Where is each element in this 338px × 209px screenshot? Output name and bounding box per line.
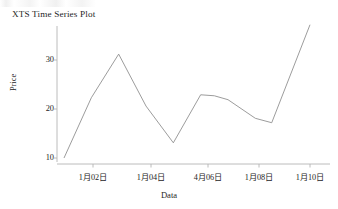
price-series-line — [64, 25, 310, 158]
plot-svg — [0, 0, 338, 209]
chart-container: XTS Time Series Plot Price Data 30 20 10… — [0, 0, 338, 209]
